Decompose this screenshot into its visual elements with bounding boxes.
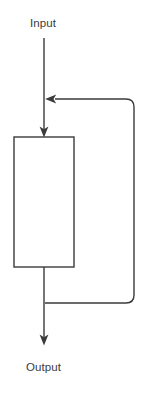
diagram-canvas (0, 0, 147, 395)
input-label: Input (30, 17, 56, 30)
feedback-loop-diagram: Input Output (0, 0, 147, 395)
output-label: Output (26, 361, 61, 374)
process-block (14, 137, 74, 267)
arrowhead-left-into-junction-icon (45, 95, 56, 104)
